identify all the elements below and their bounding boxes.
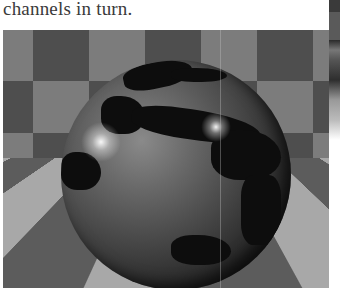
body-text-caption: channels in turn. [3, 0, 133, 20]
landmass-southeast-asia [241, 175, 281, 245]
page-fold-seam [220, 30, 221, 288]
adjacent-figure-edge [329, 0, 340, 150]
rendered-globe-figure [3, 30, 329, 288]
globe-sphere [61, 60, 291, 288]
specular-highlight-left [81, 122, 121, 162]
specular-highlight-right [201, 112, 231, 142]
landmass-australia [171, 235, 231, 265]
landmass-arctic [171, 68, 227, 82]
